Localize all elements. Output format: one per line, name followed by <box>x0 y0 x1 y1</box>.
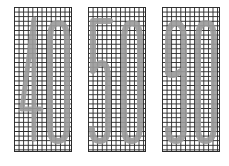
digit-0 <box>198 23 214 141</box>
digit-drawing-90 <box>162 7 220 152</box>
digit-0 <box>124 23 140 141</box>
grid-panel-90[interactable]: 90 <box>162 7 220 152</box>
grid-panel-40[interactable]: 40 <box>14 7 72 152</box>
grid-panel-50[interactable]: 50 <box>88 7 146 152</box>
digit-4 <box>22 19 41 139</box>
digit-drawing-50 <box>88 7 146 152</box>
digit-0 <box>50 23 67 141</box>
digit-drawing-40 <box>14 7 72 152</box>
digit-9 <box>168 23 184 141</box>
digit-5 <box>92 21 110 141</box>
